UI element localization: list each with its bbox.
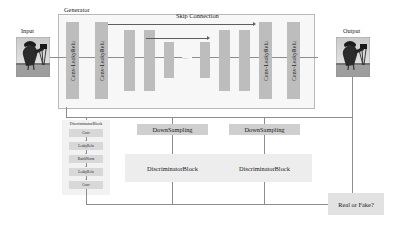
output-image (336, 37, 370, 77)
discriminator-detail-layer-3: BatchNorm (69, 155, 103, 163)
bus-to-downsample-1 (172, 117, 173, 124)
real-or-fake-box: Real or Fake? (328, 193, 384, 215)
gen-connector-3 (135, 57, 144, 58)
disc-2-to-bottom-bus (264, 182, 265, 204)
generator-conv-block-2-label: Conv-LeakyRelu (99, 41, 105, 81)
generator-conv-block-3-label: Conv-LeakyRelu (263, 41, 269, 81)
bottleneck-bar-2 (200, 42, 210, 78)
skip-connection-arrow-outer-head (253, 22, 256, 26)
generator-conv-block-4: Conv-LeakyRelu (287, 22, 300, 99)
encoder-bar-2 (144, 30, 155, 91)
output-down-rail (352, 77, 353, 201)
gen-connector-7 (210, 57, 219, 58)
photographer-illustration (16, 37, 50, 77)
generator-conv-block-2: Conv-LeakyRelu (95, 22, 108, 99)
downsample-1-to-disc-1 (172, 135, 173, 154)
generator-title: Generator (64, 6, 90, 13)
gen-connector-11 (300, 57, 318, 58)
gen-connector-2 (108, 57, 124, 58)
input-label: Input (21, 28, 34, 34)
photographer-illustration-output (336, 37, 370, 77)
downsample-2-to-disc-2 (264, 135, 265, 154)
encoder-bar-1 (124, 30, 135, 91)
diagram-canvas: Generator Input Conv-LeakyRelu Co (0, 0, 395, 236)
bottom-bus (86, 204, 328, 205)
gen-connector-10 (272, 57, 287, 58)
discriminator-detail-layer-5: Conv (69, 181, 103, 189)
bus-to-downsample-2 (264, 117, 265, 124)
decoder-bar-1 (219, 30, 230, 91)
generator-conv-block-1: Conv-LeakyRelu (66, 22, 79, 99)
disc-top-bus (66, 117, 303, 118)
discriminator-detail-layer-2: LeakyRelu (69, 142, 103, 150)
output-label: Output (343, 28, 360, 34)
discriminator-box-2: DiscriminatorBlock (217, 154, 312, 182)
discriminator-detail-layer-1: Conv (69, 129, 103, 137)
discriminator-detail-layer-4: LeakyRelu (69, 168, 103, 176)
gen-connector-6 (192, 57, 200, 58)
skip-connection-arrow-inner-head (207, 36, 210, 40)
gen-connector-1 (79, 57, 95, 58)
skip-connection-arrow-inner-line (146, 38, 208, 39)
discriminator-detail-panel: DiscriminatorBlock Conv LeakyRelu BatchN… (62, 120, 110, 195)
bottleneck-bar-1 (164, 42, 174, 78)
disc-1-to-bottom-bus (172, 182, 173, 204)
downsampling-box-1: DownSampling (137, 124, 208, 135)
output-rail-to-bus (303, 117, 353, 118)
skip-connection-arrow-outer-line (108, 24, 254, 25)
gen-to-disc-drop (66, 107, 67, 117)
detail-to-bottom-bus (86, 189, 87, 204)
gen-connector-4 (155, 57, 164, 58)
generator-conv-block-3: Conv-LeakyRelu (259, 22, 272, 99)
gen-connector-5 (174, 57, 182, 58)
downsampling-box-2: DownSampling (229, 124, 300, 135)
discriminator-detail-title: DiscriminatorBlock (62, 121, 110, 126)
generator-conv-block-4-label: Conv-LeakyRelu (291, 41, 297, 81)
gen-connector-9 (250, 57, 259, 58)
skip-connection-label: Skip Connection (176, 13, 219, 19)
input-connector (50, 57, 66, 58)
generator-conv-block-1-label: Conv-LeakyRelu (70, 41, 76, 81)
decoder-bar-2 (239, 30, 250, 91)
discriminator-box-1: DiscriminatorBlock (125, 154, 220, 182)
input-image (16, 37, 50, 77)
gen-connector-8 (230, 57, 239, 58)
bottleneck-ellipsis: ... (182, 54, 188, 60)
